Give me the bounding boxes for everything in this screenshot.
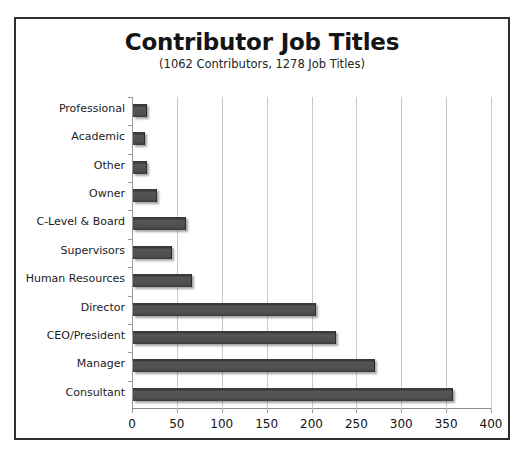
category-label: Manager — [77, 357, 125, 370]
bar — [133, 217, 186, 230]
x-axis-tick — [446, 409, 447, 413]
y-axis-tick — [128, 125, 132, 126]
x-axis-tick — [132, 409, 133, 413]
bar — [133, 303, 316, 316]
category-label: Owner — [89, 187, 125, 200]
x-axis-tick — [356, 409, 357, 413]
bar-row: Owner — [132, 182, 491, 210]
bar — [133, 246, 172, 259]
x-axis-tick — [401, 409, 402, 413]
x-axis-label: 100 — [210, 417, 233, 431]
category-label: Academic — [71, 130, 125, 143]
bar-row: CEO/President — [132, 324, 491, 352]
x-axis-tick — [267, 409, 268, 413]
category-label: Director — [81, 301, 125, 314]
category-label: Human Resources — [26, 272, 125, 285]
plot-area: ProfessionalAcademicOtherOwnerC-Level & … — [132, 97, 491, 409]
y-axis-tick — [128, 154, 132, 155]
page-title: Contributor Job Titles — [16, 29, 508, 55]
bar — [133, 388, 453, 401]
y-axis-tick — [128, 210, 132, 211]
category-label: Supervisors — [60, 244, 125, 257]
bar-row: Consultant — [132, 381, 491, 409]
x-axis-label: 150 — [255, 417, 278, 431]
x-axis-label: 350 — [435, 417, 458, 431]
bar-row: Supervisors — [132, 239, 491, 267]
bar — [133, 331, 336, 344]
bar — [133, 359, 375, 372]
category-label: CEO/President — [47, 329, 125, 342]
bar-row: C-Level & Board — [132, 210, 491, 238]
y-axis-tick — [128, 296, 132, 297]
category-label: C-Level & Board — [36, 215, 125, 228]
bar — [133, 189, 157, 202]
y-axis-tick — [128, 352, 132, 353]
y-axis-tick — [128, 267, 132, 268]
y-axis-tick — [128, 324, 132, 325]
x-axis-label: 300 — [390, 417, 413, 431]
x-axis-label: 200 — [300, 417, 323, 431]
x-axis-tick — [312, 409, 313, 413]
y-axis-tick — [128, 97, 132, 98]
bar — [133, 161, 147, 174]
chart-subtitle: (1062 Contributors, 1278 Job Titles) — [16, 56, 508, 72]
bar — [133, 274, 192, 287]
bar-row: Other — [132, 154, 491, 182]
x-axis-tick — [222, 409, 223, 413]
y-axis-tick — [128, 182, 132, 183]
bar — [133, 104, 147, 117]
bar-row: Academic — [132, 125, 491, 153]
y-axis-tick — [128, 239, 132, 240]
bar-row: Professional — [132, 97, 491, 125]
bar-row: Human Resources — [132, 267, 491, 295]
x-axis-label: 400 — [480, 417, 503, 431]
x-axis-tick — [491, 409, 492, 413]
bar-row: Manager — [132, 352, 491, 380]
bar-row: Director — [132, 296, 491, 324]
y-axis-tick — [128, 381, 132, 382]
x-axis-label: 250 — [345, 417, 368, 431]
category-label: Professional — [59, 102, 125, 115]
x-axis-label: 50 — [169, 417, 184, 431]
category-label: Consultant — [66, 386, 125, 399]
gridline — [491, 97, 492, 409]
x-axis-tick — [177, 409, 178, 413]
category-label: Other — [94, 159, 125, 172]
x-axis-label: 0 — [128, 417, 136, 431]
chart-title-block: Contributor Job Titles (1062 Contributor… — [16, 29, 508, 72]
bar — [133, 132, 145, 145]
chart-frame: Contributor Job Titles (1062 Contributor… — [14, 17, 510, 440]
